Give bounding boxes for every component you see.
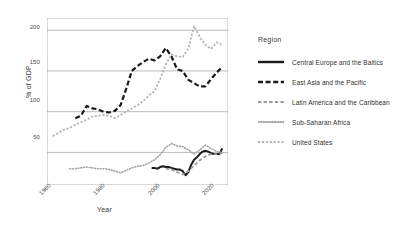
legend-key-swatch	[258, 97, 284, 107]
legend-item-label: East Asia and the Pacific	[292, 79, 366, 86]
plot-svg	[47, 18, 228, 185]
legend-item[interactable]: Central Europe and the Baltics	[258, 52, 408, 72]
legend: Region Central Europe and the Baltics Ea…	[258, 36, 408, 152]
legend-item[interactable]: United States	[258, 132, 408, 152]
legend-title: Region	[258, 36, 408, 43]
gridlines	[47, 30, 228, 152]
legend-item-label: United States	[292, 139, 332, 146]
legend-item[interactable]: Sub-Saharan Africa	[258, 112, 408, 132]
legend-item[interactable]: East Asia and the Pacific	[258, 72, 408, 92]
legend-item-label: Sub-Saharan Africa	[292, 119, 350, 126]
legend-item-label: Latin America and the Caribbean	[292, 99, 390, 106]
series-line	[75, 48, 222, 118]
y-tick-label: 50	[18, 134, 40, 140]
legend-key-swatch	[258, 137, 284, 147]
series-line	[70, 143, 223, 172]
y-axis-title: % of GDP	[25, 52, 32, 112]
legend-key-swatch	[258, 117, 284, 127]
plot-area	[47, 18, 228, 185]
y-tick-label: 200	[18, 24, 40, 30]
series-line	[166, 153, 223, 174]
chart-figure: 200 150 100 50 % of GDP 1960 1980 2000 2…	[0, 0, 409, 228]
legend-key-swatch	[258, 77, 284, 87]
legend-key-swatch	[258, 57, 284, 67]
legend-item-label: Central Europe and the Baltics	[292, 59, 383, 66]
x-axis-title: Year	[97, 206, 112, 213]
legend-item[interactable]: Latin America and the Caribbean	[258, 92, 408, 112]
series-group	[53, 26, 223, 175]
series-line	[53, 26, 223, 136]
